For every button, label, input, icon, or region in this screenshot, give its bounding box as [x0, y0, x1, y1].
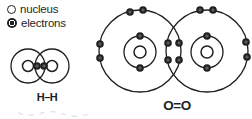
electron-dot-core [138, 34, 141, 37]
nucleus-circle [47, 61, 58, 72]
electron-dot-core [245, 55, 248, 58]
hydrogen-molecule [11, 49, 69, 83]
electron-dot-core [138, 66, 141, 69]
electron-dot-core [166, 41, 169, 44]
oxygen-molecule-label: O=O [163, 98, 190, 113]
molecular-bonding-diagram: nucleus electrons H–H O=O [0, 0, 252, 119]
electron-dot-core [205, 34, 208, 37]
legend-row-nucleus: nucleus [7, 2, 66, 16]
electron-dot-core [141, 8, 144, 11]
electron-dot-core [177, 41, 180, 44]
electron-dot-core [128, 10, 131, 13]
electron-dot-core [177, 58, 180, 61]
electron-dot-core [42, 64, 45, 67]
electron-dot-core [205, 66, 208, 69]
nucleus-icon [7, 5, 16, 14]
legend-row-electrons: electrons [7, 16, 66, 30]
electron-dot-core [98, 42, 101, 45]
hydrogen-molecule-label: H–H [37, 91, 58, 103]
electron-icon [7, 18, 17, 28]
faint-pencil-marks [18, 112, 92, 117]
electron-dot-core [98, 56, 101, 59]
electron-dot-core [244, 40, 247, 43]
electron-dot-core [166, 58, 169, 61]
legend: nucleus electrons [7, 2, 66, 30]
legend-label-nucleus: nucleus [20, 2, 58, 16]
electron-dot-core [198, 8, 201, 11]
oxygen-molecule [96, 6, 251, 92]
nucleus-circle [23, 61, 34, 72]
electron-dot-core [211, 8, 214, 11]
nucleus-circle [201, 46, 213, 58]
nucleus-circle [134, 46, 146, 58]
legend-label-electrons: electrons [21, 16, 66, 30]
electron-dot-core [35, 64, 38, 67]
